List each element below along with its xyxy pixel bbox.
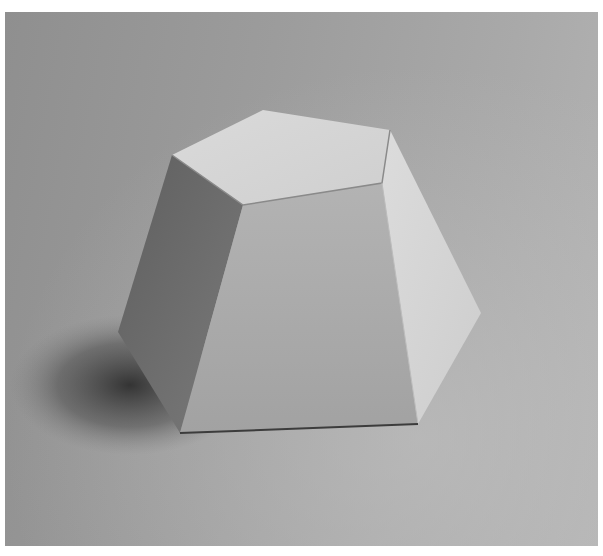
polyhedron-illustration [5,12,598,546]
photograph [5,12,598,546]
